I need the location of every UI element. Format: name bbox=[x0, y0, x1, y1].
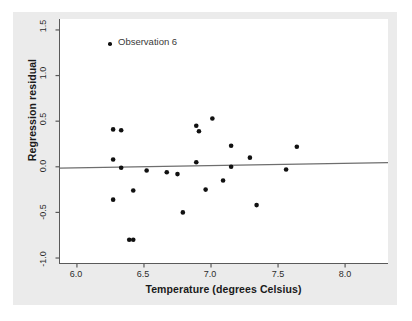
scatter-point bbox=[203, 187, 208, 192]
scatter-point bbox=[229, 144, 234, 149]
scatter-point bbox=[284, 167, 289, 172]
scatter-points bbox=[111, 116, 299, 242]
scatter-point bbox=[295, 144, 300, 149]
scatter-point bbox=[194, 160, 199, 165]
scatter-point bbox=[111, 127, 116, 132]
scatter-point bbox=[164, 170, 169, 175]
data-layer bbox=[0, 0, 412, 321]
reference-line bbox=[60, 163, 389, 168]
scatter-point bbox=[144, 168, 149, 173]
scatter-point bbox=[111, 197, 116, 202]
scatter-point bbox=[131, 237, 136, 242]
scatter-point bbox=[127, 237, 132, 242]
scatter-point bbox=[111, 157, 116, 162]
scatter-point bbox=[119, 165, 124, 170]
axis-tick-marks bbox=[56, 30, 346, 268]
scatter-point bbox=[131, 188, 136, 193]
scatter-point bbox=[119, 128, 124, 133]
scatter-point bbox=[221, 178, 226, 183]
figure-container: Regression residual Temperature (degrees… bbox=[0, 0, 412, 321]
scatter-point bbox=[210, 116, 215, 121]
scatter-point bbox=[229, 164, 234, 169]
scatter-point bbox=[175, 172, 180, 177]
scatter-point bbox=[254, 203, 259, 208]
scatter-point bbox=[181, 210, 186, 215]
scatter-point bbox=[248, 155, 253, 160]
scatter-point bbox=[194, 123, 199, 128]
scatter-point bbox=[197, 129, 202, 134]
